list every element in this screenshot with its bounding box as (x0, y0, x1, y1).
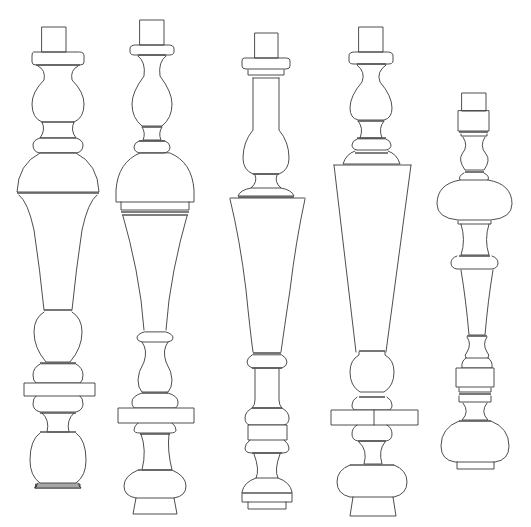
baluster-segment (461, 270, 493, 335)
baluster-segment (42, 27, 66, 52)
baluster-5 (437, 93, 512, 469)
baluster-segment (359, 442, 385, 464)
baluster-segment (33, 396, 83, 412)
baluster-segment (462, 358, 492, 368)
baluster-segment (334, 165, 356, 352)
baluster-segment (349, 52, 393, 64)
baluster-segment (461, 224, 489, 255)
baluster-segment (142, 127, 162, 140)
baluster-segment (248, 425, 287, 440)
baluster-segment (243, 78, 289, 174)
baluster-segment (254, 454, 280, 478)
baluster-segment (238, 188, 294, 196)
baluster-segment (230, 199, 253, 352)
baluster-segment (242, 58, 290, 69)
baluster-segment (133, 498, 177, 514)
baluster-segment (134, 423, 176, 433)
baluster-segment (456, 368, 494, 387)
baluster-segment (42, 413, 74, 432)
baluster-segment (437, 180, 512, 220)
baluster-segment (255, 33, 278, 58)
baluster-segment (352, 139, 391, 150)
baluster-segment (248, 502, 286, 509)
baluster-segment (32, 52, 84, 65)
baluster-segment (33, 364, 83, 383)
baluster-segment (121, 202, 189, 210)
baluster-segment (72, 195, 97, 310)
baluster-1 (17, 27, 99, 488)
baluster-segment (166, 216, 187, 330)
baluster-segment (359, 27, 383, 52)
baluster-segment (457, 462, 494, 469)
baluster-segment (132, 393, 178, 408)
baluster-segment (141, 434, 172, 470)
baluster-segment (118, 408, 194, 423)
baluster-segment (458, 221, 491, 224)
baluster-segment (140, 20, 164, 45)
baluster-segment (17, 153, 99, 192)
baluster-segment (138, 342, 172, 392)
baluster-segment (459, 396, 491, 402)
baluster-segment (137, 332, 173, 342)
baluster-segment (242, 478, 292, 502)
baluster-segment (358, 121, 384, 138)
baluster-segment (352, 425, 392, 441)
baluster-segment (134, 141, 170, 153)
baluster-segment (252, 369, 282, 408)
baluster-segment (386, 165, 411, 352)
baluster-segment (19, 195, 44, 310)
baluster-segment (116, 153, 194, 202)
baluster-segment (251, 175, 281, 188)
baluster-segment (350, 65, 392, 120)
baluster-segment (30, 433, 86, 483)
baluster-2 (116, 20, 194, 514)
baluster-segment (245, 408, 289, 425)
baluster-segment (465, 337, 489, 358)
baluster-segment (247, 355, 287, 368)
baluster-segment (248, 70, 284, 75)
baluster-segment (461, 137, 489, 170)
baluster-segment (331, 410, 418, 425)
baluster-segment (24, 383, 95, 396)
baluster-4 (331, 27, 418, 516)
baluster-drawing: Line drawing of five turned baluster des… (0, 0, 531, 527)
baluster-segment (451, 256, 498, 269)
baluster-segment (350, 352, 394, 392)
baluster-segment (32, 66, 84, 122)
baluster-segment (461, 134, 487, 136)
baluster-segment (352, 397, 392, 410)
baluster-segment (132, 56, 172, 126)
baluster-segment (34, 312, 82, 362)
drawing-svg (0, 0, 531, 527)
baluster-segment (460, 173, 489, 180)
baluster-segment (130, 45, 174, 55)
baluster-segment (245, 440, 289, 453)
baluster-segment (458, 111, 489, 131)
baluster-segment (36, 484, 80, 486)
baluster-segment (124, 470, 186, 498)
baluster-segment (350, 497, 396, 516)
baluster-segment (40, 122, 76, 138)
baluster-segment (33, 138, 83, 153)
baluster-segment (123, 216, 144, 330)
baluster-segment (441, 421, 509, 462)
baluster-3 (230, 33, 305, 509)
baluster-segment (462, 403, 488, 420)
baluster-segment (281, 199, 305, 352)
baluster-segment (337, 465, 407, 497)
baluster-segment (459, 388, 491, 392)
baluster-segment (462, 93, 486, 111)
